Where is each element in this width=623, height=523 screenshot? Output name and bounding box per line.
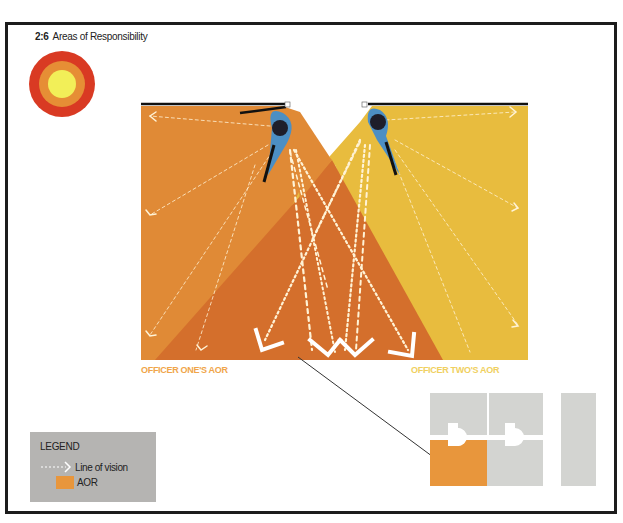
legend-title: LEGEND [40,441,79,452]
legend-label: Line of vision [75,462,128,473]
officer-one-aor-label: OFFICER ONE'S AOR [141,365,228,375]
legend-item-line-of-vision: Line of vision [40,461,128,473]
target-icon [29,51,95,117]
dashed-arrow-icon [40,461,72,473]
room [141,102,528,360]
orange-swatch-icon [56,476,74,489]
legend-item-aor: AOR [40,476,97,489]
floor-plan-icon [430,393,596,486]
legend-label: AOR [77,477,97,488]
officer-two-aor-label: OFFICER TWO'S AOR [411,365,499,375]
legend: LEGEND Line of vision AOR [30,432,156,502]
